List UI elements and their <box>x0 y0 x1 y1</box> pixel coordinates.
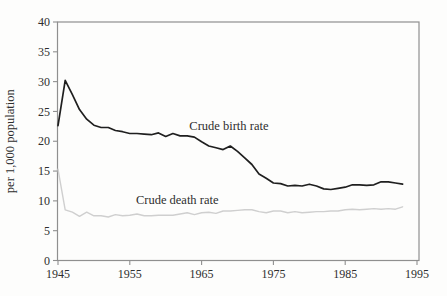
plot-border <box>58 22 420 261</box>
crude-birth-rate-annotation: Crude birth rate <box>189 119 269 133</box>
x-axis-tick-label: 1965 <box>190 267 214 281</box>
y-axis-tick-label: 30 <box>38 75 50 89</box>
y-axis-title: per 1,000 population <box>3 89 17 194</box>
y-axis-tick-label: 40 <box>38 15 50 29</box>
y-axis-tick-label: 25 <box>38 105 50 119</box>
y-axis-tick-label: 10 <box>38 194 50 208</box>
crude-birth-rate-line <box>58 80 403 189</box>
x-axis-tick-label: 1995 <box>405 267 429 281</box>
y-axis-tick-label: 35 <box>38 45 50 59</box>
y-axis-tick-label: 20 <box>38 134 50 148</box>
y-axis-tick-label: 15 <box>38 164 50 178</box>
x-axis-tick-label: 1975 <box>261 267 285 281</box>
x-axis-tick-label: 1955 <box>118 267 142 281</box>
crude-death-rate-annotation: Crude death rate <box>136 193 219 207</box>
y-axis-tick-label: 5 <box>44 224 50 238</box>
x-axis-tick-label: 1985 <box>333 267 357 281</box>
chart: 0510152025303540194519551965197519851995… <box>0 0 447 296</box>
crude-death-rate-line <box>58 169 403 217</box>
x-axis-tick-label: 1945 <box>46 267 70 281</box>
birth-death-rate-chart: 0510152025303540194519551965197519851995… <box>0 0 447 296</box>
